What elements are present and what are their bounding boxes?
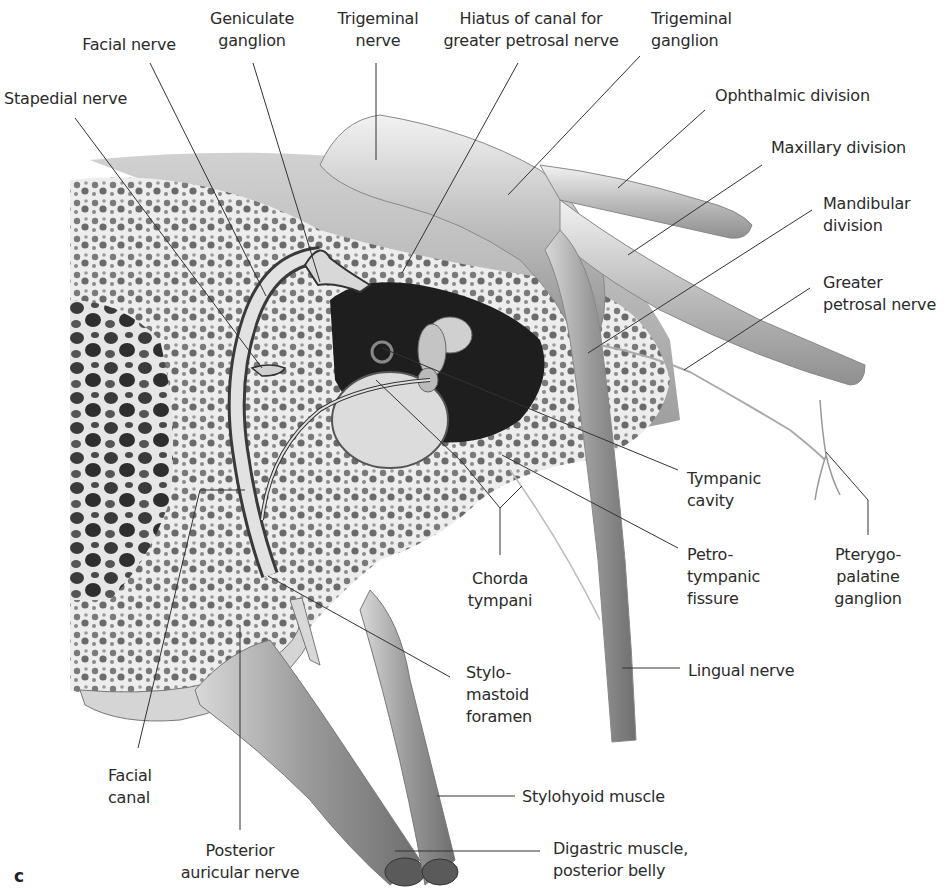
label-stylomastoid-foramen: Stylo- mastoid foramen	[466, 662, 532, 728]
label-trigeminal-nerve: Trigeminal nerve	[338, 8, 419, 52]
anatomy-illustration	[0, 0, 952, 895]
panel-letter: c	[14, 866, 24, 886]
label-mandibular-division: Mandibular division	[823, 193, 910, 237]
label-digastric-muscle: Digastric muscle, posterior belly	[553, 838, 688, 882]
label-facial-canal: Facial canal	[108, 765, 152, 809]
label-tympanic-cavity: Tympanic cavity	[687, 468, 761, 512]
label-petrotympanic-fissure: Petro- tympanic fissure	[687, 544, 760, 610]
label-maxillary-division: Maxillary division	[771, 137, 906, 159]
label-posterior-auricular-nerve: Posterior auricular nerve	[181, 840, 300, 884]
anatomy-figure: Stapedial nerve Facial nerve Geniculate …	[0, 0, 952, 895]
label-lingual-nerve: Lingual nerve	[688, 660, 794, 682]
label-stapedial-nerve: Stapedial nerve	[4, 88, 127, 110]
label-pterygopalatine-ganglion: Pterygo- palatine ganglion	[834, 544, 901, 610]
label-hiatus-greater-petrosal: Hiatus of canal for greater petrosal ner…	[443, 8, 618, 52]
label-ophthalmic-division: Ophthalmic division	[715, 85, 870, 107]
label-facial-nerve: Facial nerve	[82, 34, 176, 56]
label-greater-petrosal-nerve: Greater petrosal nerve	[823, 272, 936, 316]
label-trigeminal-ganglion: Trigeminal ganglion	[651, 8, 732, 52]
label-chorda-tympani: Chorda tympani	[468, 568, 532, 612]
label-geniculate-ganglion: Geniculate ganglion	[210, 8, 294, 52]
label-stylohyoid-muscle: Stylohyoid muscle	[522, 786, 665, 808]
